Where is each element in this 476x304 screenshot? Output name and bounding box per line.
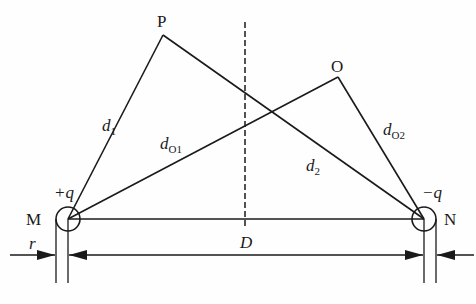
arrowhead-d-right: [405, 250, 423, 260]
label-o: O: [331, 57, 343, 76]
segment-dO2: [338, 77, 424, 219]
label-dimension-d: D: [239, 233, 253, 252]
label-dimension-r: r: [29, 234, 36, 253]
label-dO2: dO2: [383, 120, 405, 141]
label-d1: d1: [102, 116, 116, 137]
label-m: M: [26, 210, 41, 229]
arrowhead-r-left: [37, 250, 55, 260]
arrowhead-r-right: [437, 250, 455, 260]
label-charge-negative: −q: [422, 183, 442, 202]
label-p: P: [157, 12, 166, 31]
dipole-diagram: P O M N +q −q d1 d2 dO1 dO2 D r: [0, 0, 476, 304]
label-d2: d2: [306, 156, 320, 177]
label-dO1: dO1: [160, 134, 182, 155]
label-n: N: [444, 210, 456, 229]
label-charge-positive: +q: [54, 183, 74, 202]
diagram-canvas: P O M N +q −q d1 d2 dO1 dO2 D r: [0, 0, 476, 304]
arrowhead-d-left: [69, 250, 87, 260]
segment-dO1: [68, 77, 338, 219]
